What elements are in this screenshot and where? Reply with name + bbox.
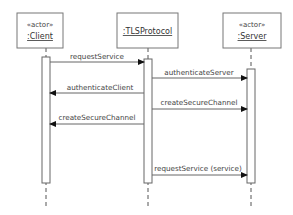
client-activation <box>42 57 50 183</box>
svg-text:requestService (service): requestService (service) <box>154 164 242 173</box>
message-authenticate-server: authenticateServer <box>152 68 247 78</box>
client-name: :Client <box>27 32 53 41</box>
svg-text:createSecureChannel: createSecureChannel <box>58 113 135 122</box>
message-create-secure-channel-client: createSecureChannel <box>50 113 144 124</box>
svg-text:authenticateServer: authenticateServer <box>164 68 233 77</box>
tls-name: :TLSProtocol <box>123 27 172 36</box>
message-authenticate-client: authenticateClient <box>50 83 144 93</box>
message-create-secure-channel-server: createSecureChannel <box>152 98 247 109</box>
message-request-service-with-param: requestService (service) <box>152 164 247 175</box>
message-request-service: requestService <box>50 52 144 62</box>
participant-server[interactable]: «actor» :Server <box>223 13 281 48</box>
server-stereotype: «actor» <box>239 21 266 29</box>
svg-text:createSecureChannel: createSecureChannel <box>160 98 237 107</box>
svg-text:requestService: requestService <box>70 52 124 61</box>
tls-activation <box>144 59 152 183</box>
server-activation <box>247 69 255 183</box>
sequence-diagram: «actor» :Client :TLSProtocol «actor» :Se… <box>0 0 293 215</box>
server-name: :Server <box>238 32 268 41</box>
svg-text:authenticateClient: authenticateClient <box>67 83 134 92</box>
client-stereotype: «actor» <box>27 21 54 29</box>
participant-client[interactable]: «actor» :Client <box>17 13 63 48</box>
participant-tls-protocol[interactable]: :TLSProtocol <box>117 13 178 48</box>
